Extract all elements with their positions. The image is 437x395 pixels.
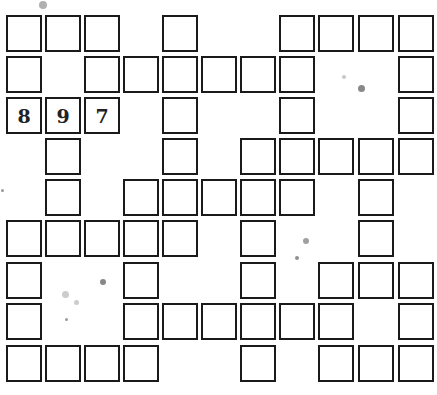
grid-cell[interactable] xyxy=(398,15,434,52)
grid-cell[interactable] xyxy=(84,56,120,93)
grid-cell[interactable] xyxy=(6,15,42,52)
speck-dot xyxy=(358,85,365,92)
grid-cell[interactable]: 9 xyxy=(45,97,81,134)
grid-cell[interactable] xyxy=(358,179,394,216)
grid-cell[interactable] xyxy=(279,179,315,216)
grid-cell[interactable] xyxy=(358,345,394,382)
grid-cell[interactable] xyxy=(279,138,315,175)
grid-cell[interactable] xyxy=(318,262,354,299)
grid-cell[interactable] xyxy=(84,220,120,257)
grid-cell[interactable] xyxy=(240,179,276,216)
grid-cell[interactable] xyxy=(45,15,81,52)
grid-cell[interactable] xyxy=(123,303,159,340)
speck-dot xyxy=(74,300,79,305)
grid-cell[interactable] xyxy=(318,138,354,175)
grid-cell[interactable] xyxy=(240,262,276,299)
grid-cell[interactable] xyxy=(162,15,198,52)
grid-cell[interactable] xyxy=(398,97,434,134)
grid-cell[interactable] xyxy=(240,220,276,257)
grid-cell[interactable] xyxy=(240,303,276,340)
grid-cell[interactable] xyxy=(84,345,120,382)
grid-cell[interactable]: 8 xyxy=(6,97,42,134)
grid-cell[interactable] xyxy=(123,345,159,382)
grid-cell[interactable] xyxy=(358,15,394,52)
grid-cell[interactable] xyxy=(162,97,198,134)
speck-dot xyxy=(65,318,68,321)
grid-cell[interactable] xyxy=(279,15,315,52)
grid-cell[interactable] xyxy=(279,56,315,93)
speck-dot xyxy=(62,291,69,298)
grid-cell[interactable] xyxy=(398,303,434,340)
grid-cell[interactable] xyxy=(398,262,434,299)
grid-cell[interactable] xyxy=(358,138,394,175)
grid-cell[interactable] xyxy=(240,138,276,175)
grid-cell[interactable] xyxy=(318,345,354,382)
grid-cell[interactable] xyxy=(318,303,354,340)
speck-dot xyxy=(342,75,346,79)
grid-cell[interactable] xyxy=(45,138,81,175)
grid-cell[interactable] xyxy=(162,56,198,93)
grid-cell[interactable] xyxy=(201,303,237,340)
grid-cell[interactable] xyxy=(162,179,198,216)
grid-cell[interactable] xyxy=(162,303,198,340)
grid-cell[interactable] xyxy=(6,56,42,93)
grid-cell[interactable] xyxy=(279,97,315,134)
crossword-grid: 897 xyxy=(0,0,437,395)
grid-cell[interactable] xyxy=(358,262,394,299)
speck-dot xyxy=(1,189,4,192)
speck-dot xyxy=(100,279,106,285)
speck-dot xyxy=(295,256,299,260)
grid-cell[interactable] xyxy=(240,345,276,382)
grid-cell[interactable] xyxy=(240,56,276,93)
grid-cell[interactable] xyxy=(318,15,354,52)
grid-cell[interactable] xyxy=(123,262,159,299)
grid-cell[interactable] xyxy=(45,220,81,257)
grid-cell[interactable] xyxy=(201,56,237,93)
grid-cell[interactable] xyxy=(398,138,434,175)
grid-cell[interactable] xyxy=(45,179,81,216)
grid-cell[interactable] xyxy=(398,56,434,93)
speck-dot xyxy=(303,238,309,244)
grid-cell[interactable] xyxy=(398,345,434,382)
grid-cell[interactable] xyxy=(6,303,42,340)
grid-cell[interactable] xyxy=(162,138,198,175)
grid-cell[interactable]: 7 xyxy=(84,97,120,134)
grid-cell[interactable] xyxy=(45,345,81,382)
grid-cell[interactable] xyxy=(123,56,159,93)
grid-cell[interactable] xyxy=(123,179,159,216)
grid-cell[interactable] xyxy=(6,220,42,257)
grid-cell[interactable] xyxy=(279,303,315,340)
grid-cell[interactable] xyxy=(6,345,42,382)
grid-cell[interactable] xyxy=(201,179,237,216)
grid-cell[interactable] xyxy=(6,262,42,299)
speck-dot xyxy=(39,1,47,9)
grid-cell[interactable] xyxy=(84,15,120,52)
grid-cell[interactable] xyxy=(358,220,394,257)
grid-cell[interactable] xyxy=(123,220,159,257)
grid-cell[interactable] xyxy=(162,220,198,257)
